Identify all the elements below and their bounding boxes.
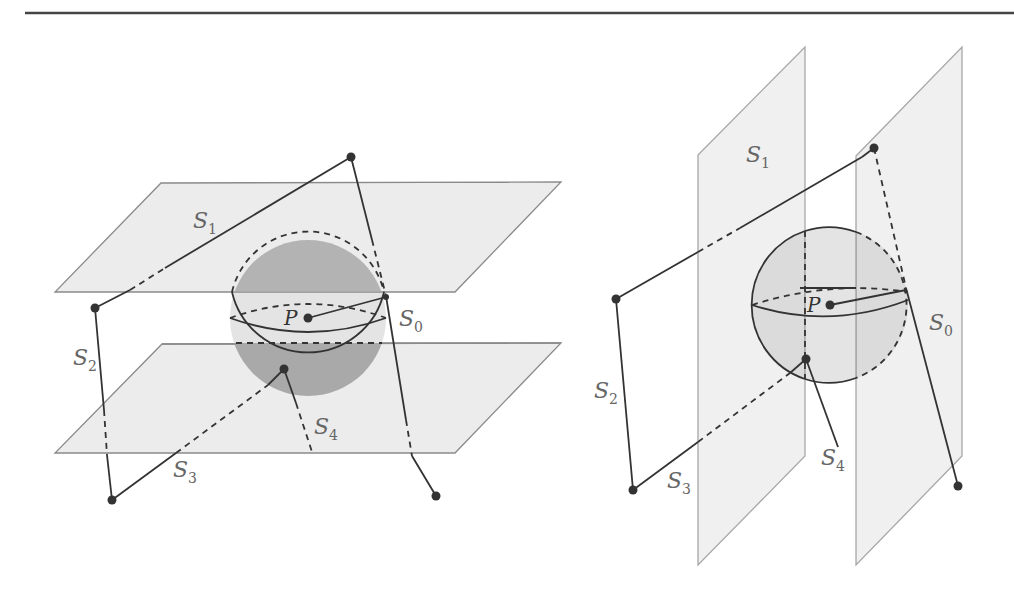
vertex-point [870, 144, 879, 153]
left-panel: S1 S0 S2 S3 S4 P [55, 153, 561, 505]
label-p: P [806, 293, 821, 317]
label-s3: S3 [667, 468, 691, 497]
label-p: P [283, 306, 298, 330]
right-panel: S1 S0 S2 S3 S4 P [594, 47, 963, 565]
vertex-point [280, 365, 289, 374]
vertex-point [91, 304, 100, 313]
label-s3: S3 [173, 457, 197, 486]
center-point-p [826, 301, 835, 310]
vertex-point [629, 486, 638, 495]
right-right-plane [856, 47, 962, 565]
vertex-point [108, 496, 117, 505]
vertex-point [347, 153, 356, 162]
vertex-point [612, 295, 621, 304]
vertex-point [432, 492, 441, 501]
vertex-point [954, 482, 963, 491]
label-s4: S4 [821, 445, 845, 474]
diagram-figure: S1 S0 S2 S3 S4 P [0, 0, 1014, 606]
label-s2: S2 [73, 345, 97, 374]
center-point-p [304, 314, 313, 323]
vertex-point [383, 294, 389, 300]
label-s0: S0 [399, 306, 423, 335]
label-s2: S2 [594, 378, 618, 407]
vertex-point [802, 355, 811, 364]
